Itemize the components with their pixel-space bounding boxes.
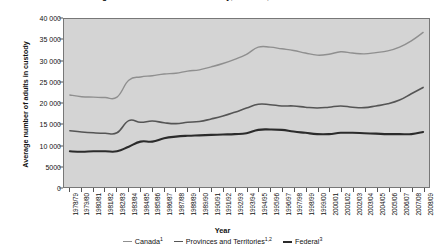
x-axis-tick-mark xyxy=(377,188,378,192)
legend-footnote-marker: 1 xyxy=(160,236,163,242)
legend-footnote-marker: 3 xyxy=(319,236,322,242)
x-axis-title: Year xyxy=(0,226,445,235)
y-axis-tick-label: 5000 xyxy=(1,163,61,170)
x-axis-tick-mark xyxy=(412,188,413,192)
x-axis-tick-label: 2003/04 xyxy=(367,193,374,215)
x-axis-tick-label: 2001/02 xyxy=(344,193,351,215)
x-axis-tick-label: 1981/82 xyxy=(107,193,114,215)
y-axis-tick-label: 20 000 xyxy=(1,100,61,107)
x-axis-tick-mark xyxy=(211,188,212,192)
x-axis-tick-mark xyxy=(223,188,224,192)
plot-area xyxy=(63,18,430,188)
chart-legend: Canada1Provinces and Territories1,2Feder… xyxy=(0,237,445,246)
x-axis-tick-label: 1989/90 xyxy=(202,193,209,215)
x-axis-tick-mark xyxy=(258,188,259,192)
x-axis-tick-label: 2007/08 xyxy=(415,193,422,215)
x-axis-tick-label: 1990/91 xyxy=(214,193,221,215)
x-axis-tick-mark xyxy=(116,188,117,192)
x-axis-tick-mark xyxy=(270,188,271,192)
legend-line-swatch xyxy=(174,241,183,242)
x-axis-tick-label: 2008/09 xyxy=(427,193,434,215)
legend-footnote-marker: 1,2 xyxy=(265,236,272,242)
x-axis-tick-label: 1987/88 xyxy=(178,193,185,215)
x-axis-tick-mark xyxy=(341,188,342,192)
x-axis-tick-mark xyxy=(81,188,82,192)
x-axis-tick-mark xyxy=(247,188,248,192)
x-axis-tick-mark xyxy=(93,188,94,192)
y-axis-tick-label: 0 xyxy=(1,185,61,192)
legend-label: Federal3 xyxy=(295,237,322,246)
series-line-federal xyxy=(70,129,423,151)
x-axis-tick-mark xyxy=(175,188,176,192)
x-axis-tick-mark xyxy=(187,188,188,192)
x-axis-tick-mark xyxy=(400,188,401,192)
x-axis-tick-mark xyxy=(389,188,390,192)
x-axis-tick-label: 1994/95 xyxy=(261,193,268,215)
y-axis-tick-label: 30 000 xyxy=(1,57,61,64)
x-axis-tick-mark xyxy=(128,188,129,192)
x-axis-tick-label: 2000/01 xyxy=(332,193,339,215)
x-axis-tick-mark xyxy=(199,188,200,192)
y-axis-tick-label: 40 000 xyxy=(1,15,61,22)
y-axis-tick-label: 15 000 xyxy=(1,121,61,128)
x-axis-tick-label: 1999/00 xyxy=(320,193,327,215)
x-axis-tick-label: 1983/84 xyxy=(131,193,138,215)
x-axis-tick-label: 2005/06 xyxy=(391,193,398,215)
x-axis-tick-label: 2002/03 xyxy=(356,193,363,215)
legend-label: Provinces and Territories1,2 xyxy=(186,237,272,246)
x-axis-tick-mark xyxy=(104,188,105,192)
x-axis-tick-label: 1991/92 xyxy=(225,193,232,215)
x-axis-tick-mark xyxy=(424,188,425,192)
x-axis-tick-label: 1995/96 xyxy=(273,193,280,215)
legend-line-swatch xyxy=(283,241,292,243)
x-axis-tick-label: 1980/81 xyxy=(95,193,102,215)
legend-line-swatch xyxy=(123,241,132,242)
x-axis-tick-label: 1992/93 xyxy=(237,193,244,215)
legend-item-canada[interactable]: Canada1 xyxy=(123,237,163,246)
x-axis-tick-mark xyxy=(318,188,319,192)
series-line-canada xyxy=(70,32,423,98)
x-axis-tick-mark xyxy=(329,188,330,192)
x-axis-tick-mark xyxy=(152,188,153,192)
y-axis-tick-label: 10 000 xyxy=(1,142,61,149)
x-axis-tick-label: 2006/07 xyxy=(403,193,410,215)
x-axis-tick-label: 1998/99 xyxy=(308,193,315,215)
legend-label: Canada1 xyxy=(135,237,163,246)
x-axis-tick-mark xyxy=(294,188,295,192)
x-axis-tick-label: 1984/85 xyxy=(143,193,150,215)
x-axis-tick-mark xyxy=(164,188,165,192)
x-axis-tick-mark xyxy=(365,188,366,192)
x-axis-tick-label: 1996/97 xyxy=(285,193,292,215)
x-axis-tick-label: 2004/05 xyxy=(379,193,386,215)
x-axis-tick-label: 1982/83 xyxy=(119,193,126,215)
series-lines xyxy=(64,19,429,187)
y-axis-tick-label: 25 000 xyxy=(1,78,61,85)
x-axis-tick-label: 1979/80 xyxy=(83,193,90,215)
legend-item-provinces-and-territories[interactable]: Provinces and Territories1,2 xyxy=(174,237,272,246)
x-axis-tick-mark xyxy=(353,188,354,192)
x-axis-tick-mark xyxy=(282,188,283,192)
x-axis-tick-label: 1985/86 xyxy=(154,193,161,215)
series-line-provinces-and-territories xyxy=(70,87,423,134)
chart-title: Average number of adults in custody, Can… xyxy=(0,0,445,1)
chart-container: Average number of adults in custody, Can… xyxy=(0,0,445,252)
x-axis-tick-label: 1997/98 xyxy=(296,193,303,215)
x-axis-tick-label: 1978/79 xyxy=(72,193,79,215)
x-axis-tick-mark xyxy=(140,188,141,192)
x-axis-tick-label: 1986/87 xyxy=(166,193,173,215)
x-axis-tick-label: 1993/94 xyxy=(249,193,256,215)
legend-item-federal[interactable]: Federal3 xyxy=(283,237,322,246)
x-axis-tick-label: 1988/89 xyxy=(190,193,197,215)
y-axis-tick-label: 35 000 xyxy=(1,36,61,43)
x-axis-tick-mark xyxy=(306,188,307,192)
x-axis-tick-mark xyxy=(235,188,236,192)
x-axis-tick-mark xyxy=(69,188,70,192)
